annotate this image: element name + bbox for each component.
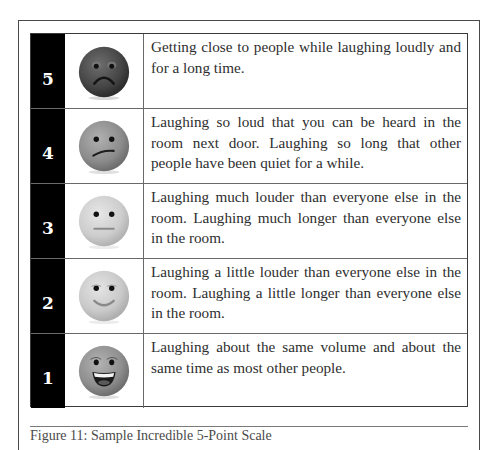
face-cell bbox=[65, 184, 144, 258]
description-text: Getting close to people while laughing l… bbox=[144, 34, 467, 109]
face-cell bbox=[65, 109, 144, 183]
caption-divider bbox=[30, 426, 468, 427]
rating-number: 2 bbox=[31, 259, 65, 333]
scale-row-2: 2 Laughing a little louder tha bbox=[31, 258, 467, 333]
scale-row-4: 4 Laughing so loud that you can be heard… bbox=[31, 108, 467, 183]
sad-face-icon bbox=[75, 43, 133, 101]
smiling-face-icon bbox=[75, 267, 133, 325]
description-text: Laughing about the same volume and about… bbox=[144, 334, 467, 408]
face-cell bbox=[65, 34, 144, 109]
scale-row-1: 1 Laughing a bbox=[31, 333, 467, 408]
description-text: Laughing so loud that you can be heard i… bbox=[144, 109, 467, 183]
scale-row-5: 5 Getting close to people whil bbox=[31, 34, 467, 109]
description-text: Laughing much louder than everyone else … bbox=[144, 184, 467, 258]
uneasy-face-icon bbox=[75, 117, 133, 175]
grinning-face-icon bbox=[75, 342, 133, 400]
face-cell bbox=[65, 334, 144, 408]
rating-number: 3 bbox=[31, 184, 65, 258]
figure-caption: Figure 11: Sample Incredible 5-Point Sca… bbox=[30, 428, 272, 444]
scale-row-3: 3 Laughing much louder than everyone els… bbox=[31, 183, 467, 258]
neutral-face-icon bbox=[75, 192, 133, 250]
face-cell bbox=[65, 259, 144, 333]
five-point-scale-table: 5 Getting close to people whil bbox=[30, 33, 468, 407]
description-text: Laughing a little louder than everyone e… bbox=[144, 259, 467, 333]
rating-number: 4 bbox=[31, 109, 65, 183]
rating-number: 1 bbox=[31, 334, 65, 408]
rating-number: 5 bbox=[31, 34, 65, 109]
